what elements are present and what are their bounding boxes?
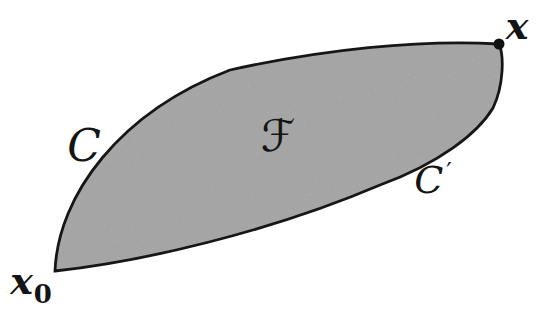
point-x-dot (494, 39, 505, 50)
point-x0-base: x (10, 258, 33, 303)
prime-mark: ′ (446, 158, 451, 186)
curve-C-prime-base: C (414, 158, 443, 202)
curve-C-label: C (67, 124, 101, 168)
point-x-label: x (506, 7, 529, 45)
region-F-label: ℱ (261, 114, 296, 158)
curve-C-prime-label: C′ (414, 160, 452, 199)
point-x0-subscript: 0 (34, 279, 52, 309)
point-x0-label: x0 (10, 262, 52, 307)
figure-canvas: C ℱ C′ x x0 (0, 0, 553, 309)
